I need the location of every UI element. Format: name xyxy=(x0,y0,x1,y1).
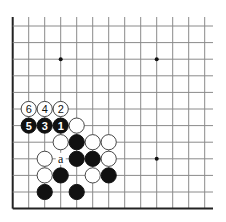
black-stone-icon xyxy=(85,151,100,166)
white-stone-icon xyxy=(85,135,100,150)
stones-layer: 642531 xyxy=(21,101,116,199)
black-stone xyxy=(69,184,84,199)
star-point-icon xyxy=(155,57,159,61)
black-stone-icon xyxy=(69,151,84,166)
move-number: 4 xyxy=(42,103,48,115)
black-stone-icon xyxy=(101,168,116,183)
white-stone xyxy=(53,135,68,150)
white-stone-icon xyxy=(37,168,52,183)
white-stone: 4 xyxy=(37,101,52,116)
white-stone-icon xyxy=(101,151,116,166)
white-stone xyxy=(37,168,52,183)
white-stone xyxy=(37,151,52,166)
white-stone-icon xyxy=(53,135,68,150)
go-board: 642531 a xyxy=(0,0,226,222)
white-stone xyxy=(85,168,100,183)
black-stone-icon xyxy=(69,184,84,199)
move-number: 6 xyxy=(26,103,32,115)
black-stone xyxy=(53,168,68,183)
black-stone xyxy=(101,168,116,183)
black-stone-icon xyxy=(53,168,68,183)
black-stone: 3 xyxy=(37,118,52,133)
white-stone xyxy=(101,135,116,150)
move-number: 3 xyxy=(42,120,48,132)
white-stone-icon xyxy=(69,118,84,133)
star-point-icon xyxy=(59,57,63,61)
white-stone: 6 xyxy=(21,101,36,116)
black-stone xyxy=(69,135,84,150)
star-point-icon xyxy=(155,157,159,161)
black-stone xyxy=(37,184,52,199)
white-stone xyxy=(69,118,84,133)
white-stone-icon xyxy=(85,168,100,183)
move-number: 1 xyxy=(58,120,64,132)
point-label: a xyxy=(58,152,64,166)
white-stone: 2 xyxy=(53,101,68,116)
black-stone-icon xyxy=(37,184,52,199)
white-stone-icon xyxy=(37,151,52,166)
move-number: 2 xyxy=(58,103,64,115)
move-number: 5 xyxy=(26,120,32,132)
white-stone xyxy=(85,135,100,150)
white-stone-icon xyxy=(101,135,116,150)
markers-layer: a xyxy=(56,152,66,166)
black-stone-icon xyxy=(69,135,84,150)
black-stone xyxy=(85,151,100,166)
white-stone xyxy=(101,151,116,166)
black-stone: 5 xyxy=(21,118,36,133)
black-stone xyxy=(69,151,84,166)
black-stone: 1 xyxy=(53,118,68,133)
